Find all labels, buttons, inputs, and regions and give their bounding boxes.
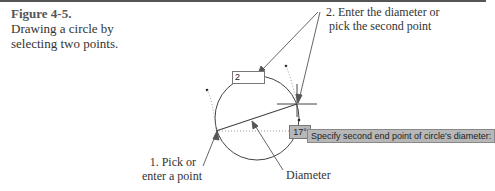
callout-step1-line2: enter a point xyxy=(132,169,202,183)
callout-step2: 2. Enter the diameter or pick the second… xyxy=(326,5,440,33)
arrowhead-diameter xyxy=(252,121,258,129)
dimension-leader-left xyxy=(207,90,216,131)
grip-dot-right xyxy=(298,119,301,122)
callout-step1-line1: 1. Pick or xyxy=(142,155,202,169)
command-prompt-tooltip: Specify second end point of circle's dia… xyxy=(307,129,495,143)
arrowhead-step1 xyxy=(213,131,219,140)
circle-shape xyxy=(215,76,299,160)
leader-step2-to-input xyxy=(260,12,318,72)
callout-diameter: Diameter xyxy=(286,168,331,182)
dynamic-input-field[interactable]: 2 xyxy=(232,71,265,84)
dimension-leader-right xyxy=(286,66,297,104)
callout-step1: 1. Pick or enter a point xyxy=(142,155,202,183)
leader-step2-to-point xyxy=(299,12,320,100)
leader-diameter xyxy=(254,124,283,170)
callout-step2-line1: 2. Enter the diameter or xyxy=(326,5,440,19)
callout-step2-line2: pick the second point xyxy=(326,19,440,33)
